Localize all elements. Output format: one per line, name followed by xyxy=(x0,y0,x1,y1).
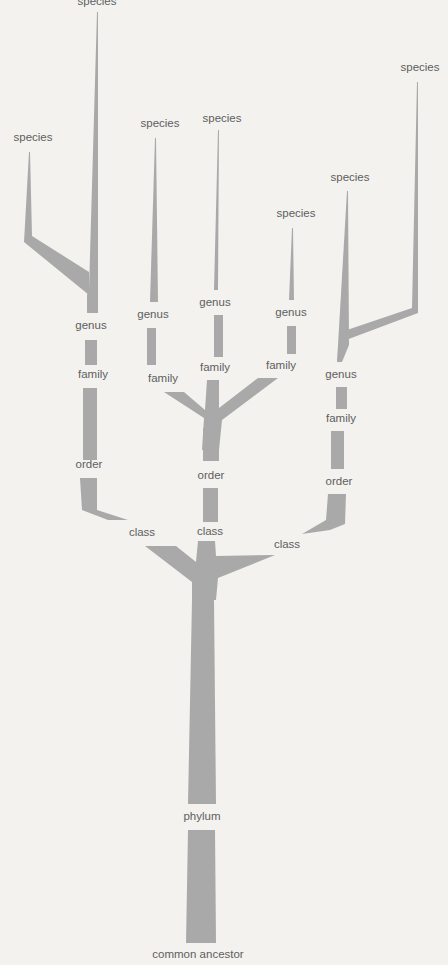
species-label-4: species xyxy=(203,113,242,125)
genus-label-3: genus xyxy=(199,297,230,309)
class-label-3: class xyxy=(274,539,300,551)
taxonomy-tree-diagram xyxy=(0,0,448,965)
genus-label-1: genus xyxy=(75,320,106,332)
far-right-species-branch xyxy=(337,82,418,362)
order-label-3: order xyxy=(326,476,353,488)
left-order-to-class-branch xyxy=(80,478,128,520)
genus-label-4: genus xyxy=(275,307,306,319)
species-label-6: species xyxy=(331,172,370,184)
mid-right-species-branch xyxy=(289,228,294,300)
phylum-label: phylum xyxy=(183,811,220,823)
left-genus-to-family-segment xyxy=(85,340,97,365)
left-tall-species-branch xyxy=(87,12,98,313)
far-left-species-branch xyxy=(24,152,89,295)
order-label-2: order xyxy=(198,470,225,482)
mid-right-genus-to-family-segment xyxy=(287,326,296,354)
family-label-4: family xyxy=(266,360,296,372)
species-label-7: species xyxy=(277,208,316,220)
family-label-2: family xyxy=(148,373,178,385)
mid-species-branch xyxy=(214,130,219,290)
mid-order-segment xyxy=(203,428,219,461)
right-genus-to-family-segment xyxy=(336,387,347,409)
left-family-to-order-segment xyxy=(83,388,97,460)
mid-order-to-class-segment xyxy=(203,488,218,522)
species-label-2: species xyxy=(14,132,53,144)
family-label-1: family xyxy=(78,369,108,381)
species-label-5: species xyxy=(401,62,440,74)
order-label-1: order xyxy=(76,459,103,471)
genus-label-5: genus xyxy=(325,369,356,381)
mid-genus-to-family-segment xyxy=(214,315,223,357)
trunk-lower xyxy=(186,830,216,943)
right-order-to-class-branch xyxy=(302,494,346,534)
class-junction xyxy=(145,541,275,600)
mid-left-species-branch xyxy=(150,138,158,302)
common-ancestor-label: common ancestor xyxy=(152,949,243,961)
family-label-3: family xyxy=(200,362,230,374)
trunk-upper xyxy=(188,600,216,804)
class-label-1: class xyxy=(129,527,155,539)
family-label-5: family xyxy=(326,413,356,425)
class-label-2: class xyxy=(197,526,223,538)
family-junction xyxy=(164,378,278,450)
right-family-to-order-segment xyxy=(331,431,344,469)
species-label-3: species xyxy=(141,118,180,130)
genus-label-2: genus xyxy=(137,309,168,321)
mid-left-genus-to-family-segment xyxy=(147,328,156,365)
species-label-1: species xyxy=(78,0,117,8)
